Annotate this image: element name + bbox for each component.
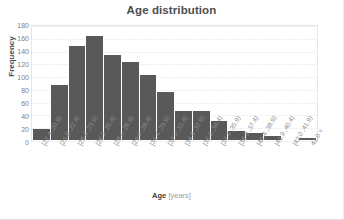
y-tick-label: 140 <box>17 48 29 55</box>
x-tick-slot: (31.4, 32.9] <box>157 143 175 193</box>
x-axis-title-unit: [years] <box>168 191 191 200</box>
x-axis-title-text: Age <box>152 191 166 200</box>
y-tick-label: 100 <box>17 74 29 81</box>
x-tick-slot: (26.9, 28.4] <box>103 143 121 193</box>
bar-slot[interactable] <box>33 27 51 140</box>
y-tick-label: 160 <box>17 35 29 42</box>
x-axis-tick-labels: (20.9, 22.4](22.4, 23.9](23.9, 25.4](25.… <box>31 143 318 193</box>
y-tick-label: 40 <box>21 113 29 120</box>
x-tick-slot: (22.4, 23.9] <box>49 143 67 193</box>
x-tick-slot: (20.9, 22.4] <box>31 143 49 193</box>
y-tick-label: 120 <box>17 61 29 68</box>
x-tick-slot: > 42.0 <box>300 143 318 193</box>
chart-card: Age distribution Frequency 1801601401201… <box>0 0 344 220</box>
y-tick-label: 80 <box>21 87 29 94</box>
x-tick-slot: (28.4, 29.9] <box>121 143 139 193</box>
x-axis-title: Age [years] <box>0 191 343 200</box>
x-tick-slot: (23.9, 25.4] <box>67 143 85 193</box>
y-tick-label: 0 <box>25 139 29 146</box>
y-tick-label: 20 <box>21 126 29 133</box>
y-tick-label: 60 <box>21 100 29 107</box>
x-tick-slot: (25.4, 26.9] <box>85 143 103 193</box>
x-tick-slot: (35.9, 37.4] <box>210 143 228 193</box>
x-tick-slot: (34.4, 35.9] <box>192 143 210 193</box>
y-axis-tick-labels: 180160140120100806040200 <box>5 25 29 142</box>
x-tick-slot: (40.4, 41.9] <box>264 143 282 193</box>
page-title: Age distribution <box>0 4 343 16</box>
x-tick-slot: (32.9, 34.4] <box>175 143 193 193</box>
x-tick-slot: (41.9, 42.0] <box>282 143 300 193</box>
y-tick-label: 180 <box>17 22 29 29</box>
x-tick-slot: (29.9, 31.4] <box>139 143 157 193</box>
x-tick-slot: (37.4, 38.9] <box>228 143 246 193</box>
x-tick-slot: (38.9, 40.4] <box>246 143 264 193</box>
